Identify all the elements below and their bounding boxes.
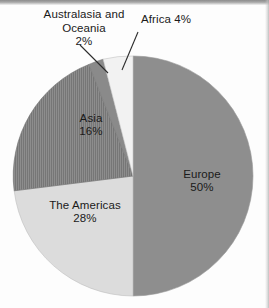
pie-label-australasia-name-line1: Australasia and <box>30 8 138 22</box>
pie-label-africa-name-value: Africa 4% <box>141 13 221 27</box>
pie-label-the-americas-value: 28% <box>30 212 140 225</box>
pie-label-australasia-value: 2% <box>30 35 138 49</box>
pie-label-asia-name: Asia <box>58 112 124 125</box>
pie-chart-figure: Europe 50% The Americas 28% Asia 16% Aus… <box>0 0 269 308</box>
pie-label-australasia-name-line2: Oceania <box>30 22 138 36</box>
pie-label-europe-value: 50% <box>168 181 236 194</box>
pie-slice-the-americas <box>14 176 133 296</box>
pie-label-africa: Africa 4% <box>141 13 221 27</box>
pie-label-europe: Europe 50% <box>168 168 236 194</box>
pie-label-australasia-and-oceania: Australasia and Oceania 2% <box>30 8 138 49</box>
pie-label-the-americas: The Americas 28% <box>30 199 140 225</box>
scan-artifact-right-strip <box>265 0 269 308</box>
pie-label-the-americas-name: The Americas <box>30 199 140 212</box>
pie-label-europe-name: Europe <box>168 168 236 181</box>
pie-label-asia-value: 16% <box>58 125 124 138</box>
pie-label-asia: Asia 16% <box>58 112 124 138</box>
